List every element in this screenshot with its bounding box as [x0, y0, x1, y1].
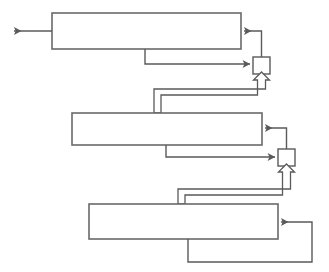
stage-2-feedback-to-junction-2 [166, 145, 275, 157]
bus-arrow-1-shape [154, 72, 270, 113]
stage-3-group [89, 204, 312, 262]
junction-1-to-stage-1 [244, 31, 262, 57]
stage-2-group [72, 113, 262, 145]
junction-2-to-stage-2 [265, 128, 287, 149]
stage-3-block[interactable] [89, 204, 278, 239]
block-diagram-canvas [0, 0, 329, 272]
block-diagram-svg [0, 0, 329, 272]
stage-2-block[interactable] [72, 113, 262, 145]
stage-3-bus-to-junction-2 [178, 164, 295, 204]
stage-1-feedback-to-junction-1 [145, 49, 250, 64]
stage-1-block[interactable] [52, 13, 241, 49]
stage-1-group [14, 13, 241, 49]
stage-2-bus-to-junction-1 [154, 72, 270, 113]
bus-arrow-2-shape [178, 164, 295, 204]
